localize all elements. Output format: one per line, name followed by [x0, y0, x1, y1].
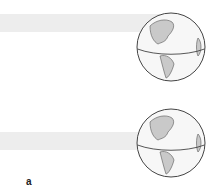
light-band-bottom [0, 132, 140, 150]
panel-label: a [26, 176, 32, 187]
globe-top-icon [136, 12, 206, 82]
globe-bottom-icon [136, 108, 206, 178]
